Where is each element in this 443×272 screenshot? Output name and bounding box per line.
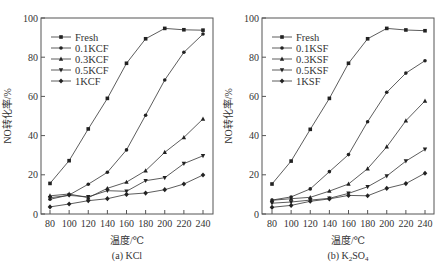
circle-marker-icon xyxy=(106,170,110,174)
panel-caption: (b) K2SO4 xyxy=(327,250,369,263)
square-marker-icon xyxy=(86,127,90,131)
y-tick-label: 80 xyxy=(28,52,38,63)
square-marker-icon xyxy=(163,27,167,31)
y-axis-label: NO转化率/% xyxy=(1,88,13,144)
x-tick-label: 100 xyxy=(284,218,299,229)
x-tick-label: 140 xyxy=(322,218,337,229)
legend-item: 0.3KSF xyxy=(272,54,329,65)
series-line xyxy=(50,28,203,183)
x-tick-label: 120 xyxy=(303,218,318,229)
data-series xyxy=(270,27,428,210)
square-marker-icon xyxy=(280,35,284,39)
y-axis-ticks: 020406080100 xyxy=(23,13,45,220)
legend-label: 1KCF xyxy=(75,76,101,87)
square-marker-icon xyxy=(289,159,293,163)
circle-marker-icon xyxy=(280,46,284,50)
x-tick-label: 160 xyxy=(341,218,356,229)
series-1ksf xyxy=(270,171,428,210)
series-0.1kcf xyxy=(48,32,205,201)
legend-label: 0.5KSF xyxy=(296,65,329,76)
triangle-up-marker-icon xyxy=(201,117,205,121)
circle-marker-icon xyxy=(328,170,332,174)
y-tick-label: 100 xyxy=(244,13,259,24)
x-tick-label: 180 xyxy=(360,218,375,229)
series-fresh xyxy=(48,27,205,186)
square-marker-icon xyxy=(385,27,389,31)
circle-marker-icon xyxy=(366,120,370,124)
triangle-up-marker-icon xyxy=(346,182,350,186)
square-marker-icon xyxy=(48,182,52,186)
chart-panel-kcl: 020406080100 80100120140160180200220240 … xyxy=(1,13,213,263)
chart-panel-k2so4: 020406080100 80100120140160180200220240 … xyxy=(222,13,434,264)
y-axis-ticks: 020406080100 xyxy=(244,13,266,220)
diamond-marker-icon xyxy=(365,193,370,198)
triangle-up-marker-icon xyxy=(163,150,167,154)
diamond-marker-icon xyxy=(404,181,409,186)
x-tick-label: 80 xyxy=(45,218,55,229)
diamond-marker-icon xyxy=(59,78,64,83)
y-tick-label: 20 xyxy=(28,169,38,180)
triangle-down-marker-icon xyxy=(182,162,186,166)
square-marker-icon xyxy=(404,28,408,32)
series-0.3kcf xyxy=(48,117,205,200)
circle-marker-icon xyxy=(404,71,408,75)
x-tick-label: 180 xyxy=(138,218,153,229)
diamond-marker-icon xyxy=(270,205,275,210)
triangle-up-marker-icon xyxy=(423,99,427,103)
series-line xyxy=(272,61,425,200)
diamond-marker-icon xyxy=(289,203,294,208)
y-tick-label: 0 xyxy=(254,209,259,220)
panel-caption: (a) KCl xyxy=(112,250,142,262)
legend-label: Fresh xyxy=(75,32,99,43)
circle-marker-icon xyxy=(308,187,312,191)
square-marker-icon xyxy=(270,182,274,186)
square-marker-icon xyxy=(125,61,129,65)
y-tick-label: 40 xyxy=(28,130,38,141)
series-fresh xyxy=(270,27,427,186)
diamond-marker-icon xyxy=(280,78,285,83)
x-tick-label: 200 xyxy=(157,218,172,229)
legend-item: 0.5KCF xyxy=(51,65,109,76)
diamond-marker-icon xyxy=(201,172,206,177)
legend-item: Fresh xyxy=(272,32,320,43)
y-tick-label: 100 xyxy=(23,13,38,24)
square-marker-icon xyxy=(59,35,63,39)
legend-item: 0.1KCF xyxy=(51,43,109,54)
x-axis-label: 温度/℃ xyxy=(331,234,365,246)
legend-label: 1KSF xyxy=(296,76,321,87)
circle-marker-icon xyxy=(423,59,427,63)
circle-marker-icon xyxy=(144,113,148,117)
square-marker-icon xyxy=(347,61,351,65)
diamond-marker-icon xyxy=(48,204,53,209)
diamond-marker-icon xyxy=(308,199,313,204)
series-line xyxy=(272,173,425,207)
y-tick-label: 40 xyxy=(249,130,259,141)
triangle-down-marker-icon xyxy=(143,179,147,183)
diamond-marker-icon xyxy=(384,186,389,191)
legend-item: 1KCF xyxy=(51,76,101,87)
square-marker-icon xyxy=(308,128,312,132)
legend-label: 0.1KCF xyxy=(75,43,109,54)
y-tick-label: 20 xyxy=(249,169,259,180)
x-tick-label: 120 xyxy=(81,218,96,229)
triangle-up-marker-icon xyxy=(124,180,128,184)
x-tick-label: 220 xyxy=(398,218,413,229)
series-0.3ksf xyxy=(270,99,427,203)
x-tick-label: 80 xyxy=(267,218,277,229)
legend-label: Fresh xyxy=(296,32,320,43)
x-axis-ticks: 80100120140160180200220240 xyxy=(45,210,211,229)
figure: 020406080100 80100120140160180200220240 … xyxy=(0,0,443,272)
square-marker-icon xyxy=(67,159,71,163)
x-tick-label: 160 xyxy=(119,218,134,229)
legend-item: 0.1KSF xyxy=(272,43,329,54)
circle-marker-icon xyxy=(182,51,186,55)
x-tick-label: 140 xyxy=(100,218,115,229)
circle-marker-icon xyxy=(163,78,167,82)
square-marker-icon xyxy=(144,37,148,41)
y-tick-label: 60 xyxy=(249,91,259,102)
circle-marker-icon xyxy=(59,46,63,50)
legend-item: 0.3KCF xyxy=(51,54,109,65)
plot-frame xyxy=(41,18,213,214)
x-axis-label: 温度/℃ xyxy=(110,234,144,246)
legend-item: 1KSF xyxy=(272,76,321,87)
